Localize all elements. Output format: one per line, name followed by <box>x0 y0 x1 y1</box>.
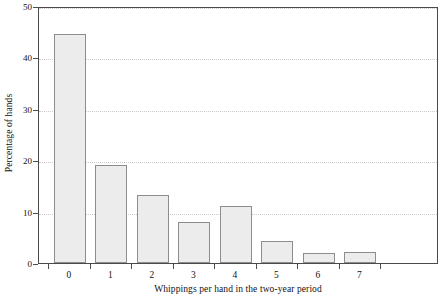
y-axis-tick-label: 0 <box>16 260 32 269</box>
x-axis-tick-mark <box>131 264 132 269</box>
x-axis-title: Whippings per hand in the two-year perio… <box>38 284 438 294</box>
x-axis-tick-mark <box>256 264 257 269</box>
x-axis-tick-labels: 01234567 <box>38 270 438 284</box>
x-axis-tick-mark <box>380 264 381 269</box>
y-axis-tick-label: 30 <box>16 105 32 114</box>
bar-chart-figure: Percentage of hands 01020304050 01234567… <box>0 0 446 299</box>
y-axis-tick-label: 50 <box>16 3 32 12</box>
y-axis-tick-label: 20 <box>16 157 32 166</box>
bar <box>220 206 252 263</box>
x-axis-tick-mark <box>48 264 49 269</box>
bar <box>303 253 335 263</box>
y-axis-title-text: Percentage of hands <box>4 93 14 171</box>
x-axis-tick-mark <box>173 264 174 269</box>
plot-area <box>38 7 438 264</box>
x-axis-tick-label: 6 <box>306 270 330 280</box>
y-axis-tick-label: 40 <box>16 54 32 63</box>
x-axis-tick-label: 0 <box>57 270 81 280</box>
x-axis-tick-label: 1 <box>98 270 122 280</box>
x-axis-tick-label: 5 <box>264 270 288 280</box>
bar <box>54 34 86 263</box>
x-axis-tick-label: 3 <box>181 270 205 280</box>
bar <box>261 241 293 263</box>
x-axis-tick-mark <box>297 264 298 269</box>
x-axis-tick-label: 2 <box>140 270 164 280</box>
x-axis-tick-mark <box>90 264 91 269</box>
x-axis-tick-label: 4 <box>223 270 247 280</box>
y-axis-tick-labels: 01020304050 <box>14 0 32 299</box>
x-axis-tick-mark <box>214 264 215 269</box>
bar <box>95 165 127 263</box>
x-axis-tick-label: 7 <box>347 270 371 280</box>
bar <box>137 195 169 263</box>
bar <box>344 252 376 263</box>
y-axis-tick-label: 10 <box>16 208 32 217</box>
x-axis-tick-mark <box>339 264 340 269</box>
bars-layer <box>39 8 437 263</box>
bar <box>178 222 210 263</box>
